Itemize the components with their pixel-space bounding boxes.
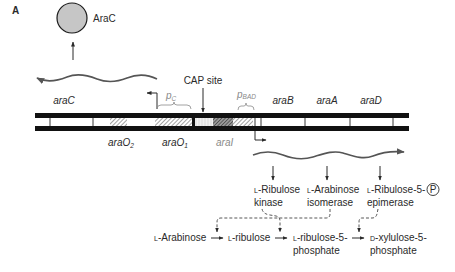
gene-label-arac: araC <box>53 95 75 106</box>
site-label-arao1: araO1 <box>162 137 188 149</box>
isomerase-catalysis-connector <box>217 209 330 232</box>
pathway-ribulose-5-phosphate-line2: phosphate <box>293 245 340 256</box>
cap-site-label: CAP site <box>184 75 223 86</box>
arac-mrna-wave <box>37 75 157 82</box>
pathway-ribulose-5-phosphate-name: -ribulose-5- <box>297 232 348 243</box>
pathway-xylulose-5-phosphate-line2: phosphate <box>370 245 417 256</box>
site-label-arao2: araO2 <box>108 137 134 149</box>
arao1-region <box>155 118 192 126</box>
arabad-mrna-wave <box>253 152 404 159</box>
ara-operon-diagram: A AraC pC CAP site pBAD araC araB araA a… <box>0 0 455 272</box>
gene-label-arad: araD <box>360 95 382 106</box>
dna-strand <box>35 113 409 131</box>
pbad-brace <box>238 103 254 110</box>
pbad-promoter-arrow-icon <box>255 131 266 140</box>
enzyme-isomerase-name: -Arabinose <box>311 184 360 195</box>
pathway-arabinose-label: L-Arabinose <box>154 232 207 243</box>
pathway-ribulose: L-ribulose <box>228 232 271 243</box>
enzyme-isomerase: L-Arabinose isomerase <box>307 184 360 208</box>
pathway-xylulose-5-phosphate: D-xylulose-5- phosphate <box>370 232 427 256</box>
arac-protein-circle <box>57 3 87 33</box>
gene-label-araa: araA <box>316 95 337 106</box>
enzyme-kinase-line1: L-Ribulose <box>254 184 301 195</box>
arai-region <box>213 118 233 126</box>
arac-protein-label: AraC <box>93 13 116 24</box>
pathway-ribulose-5-phosphate-line1: L-ribulose-5- <box>293 232 347 243</box>
pc-divider <box>192 117 195 127</box>
pathway-ribulose-5-phosphate: L-ribulose-5- phosphate <box>293 232 347 256</box>
dna-top-strand <box>35 113 409 118</box>
epimerase-catalysis-connector <box>359 209 378 232</box>
site-label-arai: araI <box>216 137 233 148</box>
arao1-name: araO <box>162 137 184 148</box>
pc-brace <box>157 102 191 109</box>
pathway-arabinose-name: -Arabinose <box>158 232 207 243</box>
cap-site-region <box>195 118 213 126</box>
pathway-xylulose-5-phosphate-line1: D-xylulose-5- <box>370 232 427 243</box>
enzyme-kinase-name: -Ribulose <box>258 184 301 195</box>
enzyme-epimerase-line1: L-Ribulose-5- <box>367 184 425 195</box>
enzyme-isomerase-line1: L-Arabinose <box>307 184 360 195</box>
pathway-ribulose-label: L-ribulose <box>228 232 271 243</box>
enzyme-epimerase-line2: epimerase <box>367 197 414 208</box>
pathway-ribulose-name: -ribulose <box>232 232 271 243</box>
pc-subscript: C <box>172 95 177 102</box>
gene-label-arab: araB <box>272 95 293 106</box>
panel-label: A <box>12 5 19 16</box>
pbad-subscript: BAD <box>243 93 257 100</box>
enzyme-kinase-line2: kinase <box>254 197 283 208</box>
phosphate-badge: P <box>430 184 437 195</box>
pathway-arabinose: L-Arabinose <box>154 232 207 243</box>
dna-bottom-strand <box>35 126 409 131</box>
arao2-region <box>110 118 127 126</box>
enzyme-epimerase-name: -Ribulose-5- <box>371 184 425 195</box>
pc-promoter-label: pC <box>165 90 177 102</box>
arao2-name: araO <box>108 137 130 148</box>
kinase-catalysis-connector <box>262 209 280 232</box>
enzyme-epimerase: L-Ribulose-5- P epimerase <box>367 184 439 209</box>
pbad-region <box>233 118 253 126</box>
arao1-subscript: 1 <box>184 142 188 149</box>
arao2-subscript: 2 <box>129 142 134 149</box>
pc-promoter-arrow-icon <box>147 93 157 109</box>
pathway-xylulose-5-phosphate-name: -xylulose-5- <box>375 232 427 243</box>
enzyme-kinase: L-Ribulose kinase <box>254 184 301 208</box>
enzyme-isomerase-line2: isomerase <box>307 197 354 208</box>
pbad-promoter-label: pBAD <box>236 89 256 100</box>
